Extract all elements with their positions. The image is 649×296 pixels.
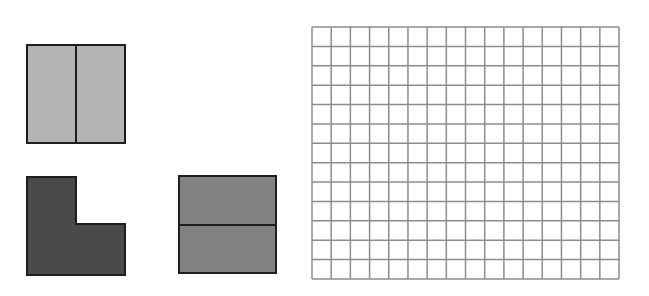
diagram-canvas	[0, 0, 649, 296]
horizontal-split-square	[179, 176, 276, 273]
vertical-split-square	[27, 45, 125, 143]
square-grid	[312, 27, 619, 279]
